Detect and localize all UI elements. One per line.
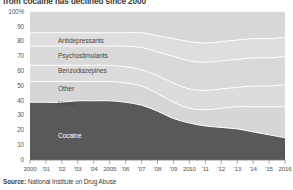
y-tick-label: 20: [0, 127, 24, 133]
series-label-cocaine: Cocaine: [58, 133, 82, 140]
series-label-other: Other: [58, 86, 74, 93]
x-tick-label: 2016: [273, 166, 293, 172]
y-tick-label: 50: [0, 83, 24, 89]
series-label-benzodiazepines: Benzodiazepines: [58, 68, 107, 75]
series-label-psychostimulants: Psychostimulants: [58, 53, 108, 60]
y-tick-label: 80: [0, 38, 24, 44]
series-label-antidepressants: Antidepressants: [58, 38, 104, 45]
y-tick-label: 70: [0, 53, 24, 59]
series-label-heroin: Heroin: [58, 101, 77, 108]
chart-figure: from cocaine has declined since 2000 010…: [0, 0, 293, 190]
y-tick-label: 40: [0, 98, 24, 104]
source-text: National Institute on Drug Abuse: [26, 178, 116, 185]
source-note: Source: National Institute on Drug Abuse: [3, 178, 116, 185]
y-tick-label: 90: [0, 24, 24, 30]
chart-title: from cocaine has declined since 2000: [3, 0, 289, 7]
stacked-area-chart: [0, 8, 293, 173]
source-prefix: Source:: [3, 178, 26, 185]
y-tick-label: 30: [0, 112, 24, 118]
y-tick-label: 0: [0, 157, 24, 163]
y-tick-label: 60: [0, 68, 24, 74]
plot-area: 0102030405060708090100% 2000'01'02'03'04…: [0, 8, 293, 173]
y-tick-label: 100%: [0, 9, 24, 15]
y-tick-label: 10: [0, 142, 24, 148]
